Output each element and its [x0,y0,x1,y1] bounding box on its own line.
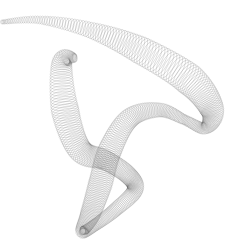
ribbon-lines [0,16,225,239]
spirograph-artwork [0,0,233,252]
